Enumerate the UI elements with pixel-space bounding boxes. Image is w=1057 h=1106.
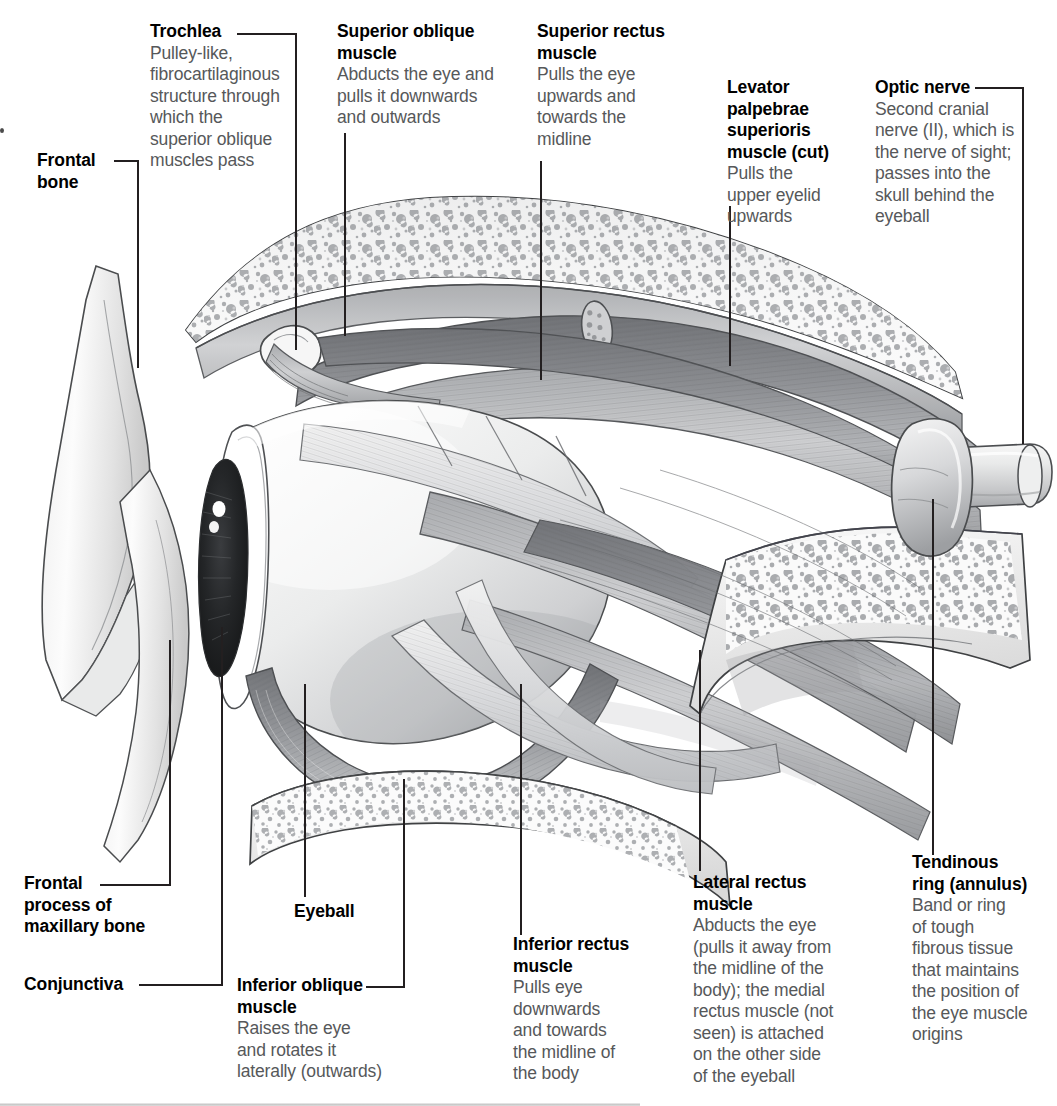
label-levator-body: Pulls theupper eyelidupwards [727,163,857,228]
label-inferior-oblique-muscle: Inferior obliquemuscle Raises the eyeand… [237,975,417,1083]
label-optic-nerve-body: Second cranialnerve (II), which isthe ne… [875,99,1030,228]
label-tendinous-ring-body: Band or ringof toughfibrous tissuethat m… [912,895,1057,1046]
label-eyeball: Eyeball [294,901,414,923]
label-inferior-rectus-body: Pulls eyedownwardsand towardsthe midline… [513,977,663,1085]
leader-inferior-oblique [366,779,404,987]
label-conjunctiva: Conjunctiva [24,974,174,996]
label-frontal-bone-heading: Frontalbone [37,150,157,193]
label-frontal-bone: Frontalbone [37,150,157,193]
label-lateral-rectus-heading: Lateral rectusmuscle [693,872,858,915]
label-levator-palpebrae-superioris-muscle: Levatorpalpebraesuperiorismuscle (cut) P… [727,77,857,228]
label-superior-rectus-heading: Superior rectusmuscle [537,21,697,64]
label-inferior-oblique-heading: Inferior obliquemuscle [237,975,417,1018]
label-conjunctiva-heading: Conjunctiva [24,974,174,996]
label-inferior-rectus-muscle: Inferior rectusmuscle Pulls eyedownwards… [513,934,663,1085]
label-superior-rectus-muscle: Superior rectusmuscle Pulls the eyeupwar… [537,21,697,150]
label-inferior-oblique-body: Raises the eyeand rotates itlaterally (o… [237,1018,417,1083]
label-frontal-process-of-maxillary-bone: Frontalprocess ofmaxillary bone [24,873,194,938]
label-superior-oblique-heading: Superior obliquemuscle [337,21,517,64]
label-tendinous-ring-heading: Tendinousring (annulus) [912,852,1057,895]
label-trochlea-heading: Trochlea [150,21,300,43]
label-lateral-rectus-muscle: Lateral rectusmuscle Abducts the eye(pul… [693,872,858,1087]
print-speck [0,128,4,133]
figure-canvas: Trochlea Pulley-like,fibrocartilaginouss… [0,0,1057,1106]
label-trochlea-body: Pulley-like,fibrocartilaginousstructure … [150,43,300,172]
label-optic-nerve-heading: Optic nerve [875,77,1030,99]
label-superior-oblique-body: Abducts the eye andpulls it downwardsand… [337,64,517,129]
label-superior-rectus-body: Pulls the eyeupwards andtowards themidli… [537,64,697,150]
label-frontal-process-heading: Frontalprocess ofmaxillary bone [24,873,194,938]
label-tendinous-ring-annulus: Tendinousring (annulus) Band or ringof t… [912,852,1057,1046]
label-inferior-rectus-heading: Inferior rectusmuscle [513,934,663,977]
label-superior-oblique-muscle: Superior obliquemuscle Abducts the eye a… [337,21,517,129]
label-optic-nerve: Optic nerve Second cranialnerve (II), wh… [875,77,1030,228]
leader-frontal-process [100,640,170,885]
label-eyeball-heading: Eyeball [294,901,414,923]
label-lateral-rectus-body: Abducts the eye(pulls it away fromthe mi… [693,915,858,1087]
label-levator-heading: Levatorpalpebraesuperiorismuscle (cut) [727,77,857,163]
label-trochlea: Trochlea Pulley-like,fibrocartilaginouss… [150,21,300,172]
